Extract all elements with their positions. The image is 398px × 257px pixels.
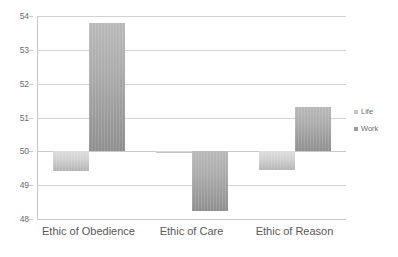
bar-group (37, 16, 140, 219)
bar-work[interactable] (89, 23, 125, 151)
y-axis-tick-label: 49 (20, 181, 29, 190)
y-axis-tick-mark (29, 118, 33, 119)
bar-life[interactable] (156, 151, 192, 153)
bar-group (140, 16, 243, 219)
bar-chart: 54535251504948 Ethic of ObedienceEthic o… (0, 0, 398, 257)
bar-work[interactable] (192, 151, 228, 210)
y-axis-tick-label: 53 (20, 45, 29, 54)
x-axis-category-label: Ethic of Obedience (42, 224, 135, 238)
legend-label: Work (361, 124, 378, 133)
legend-label: Life (361, 107, 373, 116)
legend-item-life[interactable]: Life (354, 103, 398, 120)
bar-life[interactable] (259, 151, 295, 170)
y-axis-tick-mark (29, 185, 33, 186)
y-axis: 54535251504948 (0, 16, 33, 219)
x-axis-category-label: Ethic of Care (160, 224, 224, 238)
y-axis-tick-label: 54 (20, 12, 29, 21)
y-axis-tick-label: 48 (20, 215, 29, 224)
y-axis-tick-mark (29, 151, 33, 152)
x-axis: Ethic of ObedienceEthic of CareEthic of … (37, 224, 346, 248)
y-axis-tick-label: 51 (20, 113, 29, 122)
y-axis-tick-mark (29, 84, 33, 85)
square-swatch-icon (354, 127, 358, 131)
y-axis-tick-mark (29, 219, 33, 220)
y-axis-tick-label: 50 (20, 147, 29, 156)
x-axis-line (37, 219, 346, 220)
y-axis-tick-label: 52 (20, 79, 29, 88)
bar-group (243, 16, 346, 219)
x-axis-category-label: Ethic of Reason (256, 224, 334, 238)
y-axis-tick-mark (29, 50, 33, 51)
plot-area (37, 16, 346, 219)
square-swatch-icon (354, 110, 358, 114)
legend-item-work[interactable]: Work (354, 120, 398, 137)
chart-legend: LifeWork (354, 103, 398, 137)
y-axis-tick-mark (29, 16, 33, 17)
bar-work[interactable] (295, 107, 331, 151)
bar-life[interactable] (53, 151, 89, 171)
